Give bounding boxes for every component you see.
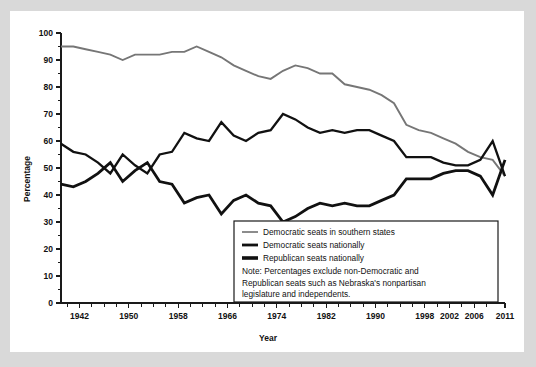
legend-label: Democratic seats nationally: [263, 240, 365, 250]
x-tick-label: 1958: [169, 311, 188, 321]
chart-paper-card: 0102030405060708090100 19421950195819661…: [10, 11, 524, 352]
x-tick-label: 1990: [366, 311, 385, 321]
x-tick-label: 1966: [218, 311, 237, 321]
chart-legend: Democratic seats in southern statesDemoc…: [234, 221, 498, 302]
y-tick-label: 90: [44, 55, 54, 65]
screenshot-root: 0102030405060708090100 19421950195819661…: [0, 0, 536, 367]
y-tick-label: 70: [44, 109, 54, 119]
series-line: [61, 114, 505, 176]
x-tick-label: 1950: [119, 311, 138, 321]
x-tick-label: 2002: [440, 311, 459, 321]
x-axis-title: Year: [259, 333, 278, 343]
x-tick-label: 1974: [267, 311, 286, 321]
y-tick-label: 10: [44, 271, 54, 281]
x-tick-label: 2011: [496, 311, 515, 321]
y-tick-label: 100: [39, 28, 53, 38]
y-tick-label: 80: [44, 82, 54, 92]
legend-label: Democratic seats in southern states: [263, 227, 395, 237]
y-axis: 0102030405060708090100: [39, 28, 61, 308]
x-tick-label: 1942: [70, 311, 89, 321]
legend-note-line: Note: Percentages exclude non-Democratic…: [242, 266, 419, 276]
series-line: [61, 160, 505, 222]
x-tick-label: 1998: [415, 311, 434, 321]
y-tick-label: 20: [44, 244, 54, 254]
legend-note-line: Republican seats such as Nebraska's nonp…: [242, 278, 426, 288]
y-tick-label: 50: [44, 163, 54, 173]
legend-label: Republican seats nationally: [263, 253, 365, 263]
x-tick-label: 1982: [317, 311, 336, 321]
series-lines: [61, 47, 505, 223]
series-line: [61, 47, 505, 177]
y-axis-title: Percentage: [22, 156, 32, 202]
legend-note-line: legislature and independents.: [242, 289, 350, 299]
y-tick-label: 40: [44, 190, 54, 200]
line-chart-figure: 0102030405060708090100 19421950195819661…: [10, 11, 524, 352]
y-tick-label: 60: [44, 136, 54, 146]
y-tick-label: 30: [44, 217, 54, 227]
y-tick-label: 0: [48, 298, 53, 308]
x-tick-label: 2006: [465, 311, 484, 321]
x-axis: 1942195019581966197419821990199820022006…: [61, 303, 514, 321]
chart-canvas: 0102030405060708090100 19421950195819661…: [10, 11, 524, 352]
